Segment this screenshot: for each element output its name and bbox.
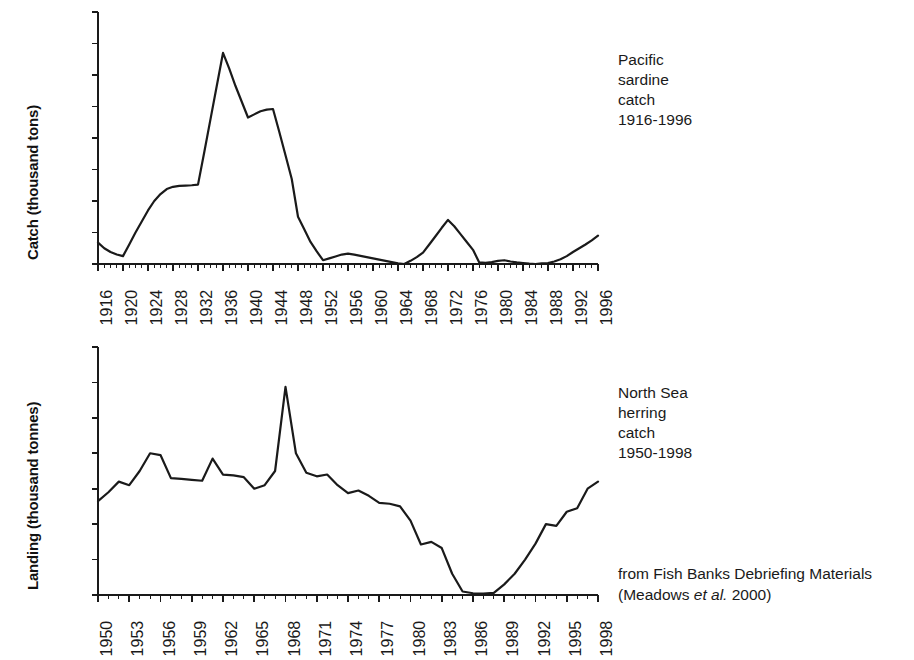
- x-tick-label: 1971: [317, 621, 335, 657]
- x-tick-label: 1956: [348, 290, 366, 326]
- x-tick-label: 1989: [504, 621, 522, 657]
- source-credit-line-1: from Fish Banks Debriefing Materials: [618, 563, 872, 584]
- annotation-herring: North Sea herring catch 1950-1998: [618, 383, 692, 463]
- x-tick-label: 1983: [442, 621, 460, 657]
- x-tick-label: 1953: [129, 621, 147, 657]
- x-tick-label: 1950: [98, 621, 116, 657]
- x-tick-label: 1962: [223, 621, 241, 657]
- x-tick-label: 1976: [473, 290, 491, 326]
- annotation-sardine-line-4: 1916-1996: [618, 110, 692, 130]
- x-tick-label: 1996: [598, 290, 616, 326]
- x-tick-label: 1964: [398, 290, 416, 326]
- source-credit-line-2: (Meadows et al. 2000): [618, 584, 872, 605]
- plot-area-herring: [98, 347, 598, 595]
- annotation-sardine-line-1: Pacific: [618, 50, 692, 70]
- credit-et-al: et al.: [694, 586, 728, 603]
- x-tick-label: 1995: [567, 621, 585, 657]
- x-tick-label: 1936: [223, 290, 241, 326]
- annotation-herring-line-3: catch: [618, 423, 692, 443]
- x-tick-label: 1980: [498, 290, 516, 326]
- annotation-herring-line-2: herring: [618, 403, 692, 423]
- x-tick-label: 1932: [198, 290, 216, 326]
- x-tick-label: 1959: [192, 621, 210, 657]
- x-tick-label: 1984: [523, 290, 541, 326]
- credit-paren-open: (Meadows: [618, 586, 694, 603]
- x-tick-label: 1968: [286, 621, 304, 657]
- x-tick-label: 1988: [548, 290, 566, 326]
- x-tick-label: 1974: [348, 621, 366, 657]
- x-tick-label: 1986: [473, 621, 491, 657]
- x-tick-label: 1956: [161, 621, 179, 657]
- plot-area-sardine: [98, 12, 598, 264]
- x-axis-ticks-sardine: 1916192019241928193219361940194419481952…: [98, 272, 598, 332]
- x-tick-label: 1980: [411, 621, 429, 657]
- x-tick-label: 1952: [323, 290, 341, 326]
- line-series-herring: [98, 347, 600, 597]
- x-tick-label: 1940: [248, 290, 266, 326]
- x-tick-label: 1998: [598, 621, 616, 657]
- annotation-sardine-line-3: catch: [618, 90, 692, 110]
- y-axis-title-herring: Landing (thousand tonnes): [24, 402, 41, 590]
- chart-panel-herring: Landing (thousand tonnes) 02004006008001…: [0, 325, 914, 647]
- x-tick-label: 1992: [536, 621, 554, 657]
- x-tick-label: 1916: [98, 290, 116, 326]
- annotation-sardine: Pacific sardine catch 1916-1996: [618, 50, 692, 130]
- x-tick-label: 1965: [254, 621, 272, 657]
- chart-panel-sardine: Catch (thousand tons) 010020030040050060…: [0, 0, 914, 325]
- x-tick-label: 1928: [173, 290, 191, 326]
- x-tick-label: 1977: [379, 621, 397, 657]
- x-tick-label: 1948: [298, 290, 316, 326]
- annotation-herring-line-4: 1950-1998: [618, 443, 692, 463]
- x-tick-label: 1968: [423, 290, 441, 326]
- annotation-herring-line-1: North Sea: [618, 383, 692, 403]
- annotation-sardine-line-2: sardine: [618, 70, 692, 90]
- y-axis-title-sardine: Catch (thousand tons): [24, 105, 41, 260]
- x-tick-label: 1944: [273, 290, 291, 326]
- credit-year: 2000): [727, 586, 771, 603]
- x-tick-label: 1960: [373, 290, 391, 326]
- x-tick-label: 1992: [573, 290, 591, 326]
- x-axis-ticks-herring: 1950195319561959196219651968197119741977…: [98, 603, 598, 660]
- x-tick-label: 1972: [448, 290, 466, 326]
- x-tick-label: 1920: [123, 290, 141, 326]
- x-tick-label: 1924: [148, 290, 166, 326]
- line-series-sardine: [98, 12, 600, 266]
- source-credit: from Fish Banks Debriefing Materials (Me…: [618, 563, 872, 605]
